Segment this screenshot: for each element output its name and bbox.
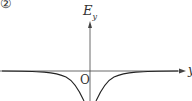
curve-left-branch bbox=[2, 71, 84, 101]
curve-right-branch bbox=[96, 71, 178, 101]
panel-label: ② bbox=[0, 0, 12, 11]
horizontal-axis-label: y bbox=[188, 63, 192, 77]
field-diagram: ② Ey O y bbox=[0, 0, 192, 101]
horizontal-axis-arrow-icon bbox=[179, 69, 186, 74]
vertical-axis-arrow-icon bbox=[88, 21, 92, 28]
vertical-axis-label: Ey bbox=[83, 3, 97, 21]
origin-label: O bbox=[80, 73, 90, 87]
vertical-axis-label-subscript: y bbox=[93, 12, 98, 21]
vertical-axis-label-main: E bbox=[83, 3, 93, 18]
